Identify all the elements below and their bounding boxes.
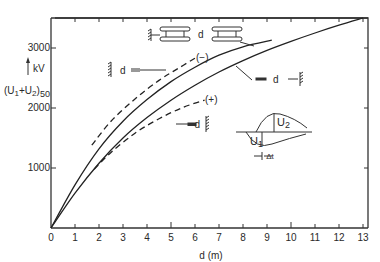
y-unit-label: kV (33, 63, 45, 74)
waveform-inset (236, 113, 312, 160)
ground-plane-hatch-icon (206, 116, 209, 132)
delta-t-label: Δt (266, 152, 274, 161)
x-tick-label: 10 (285, 232, 297, 243)
x-tick-label: 1 (72, 232, 78, 243)
curve-2 (92, 58, 195, 145)
x-tick-label: 8 (240, 232, 246, 243)
x-axis-tick-labels: 012345678910111213 (48, 232, 369, 243)
x-tick-label: 13 (357, 232, 369, 243)
insulator-string-icon (212, 27, 242, 41)
x-tick-label: 2 (96, 232, 102, 243)
x-tick-label: 4 (144, 232, 150, 243)
x-axis-ticks (75, 222, 363, 228)
gap-d-label-rod-rod: d (198, 29, 204, 40)
x-tick-label: 11 (310, 232, 321, 243)
y-tick-label-3000: 3000 (28, 42, 51, 53)
plot-frame (51, 18, 368, 228)
minus-curve-label: (−) (196, 52, 209, 63)
negative-rod-plane-sketch (108, 62, 166, 77)
x-tick-label: 12 (333, 232, 345, 243)
ground-plane-hatch-icon (108, 62, 111, 77)
y-tick-label-1000: 1000 (28, 162, 51, 173)
ground-hatch-icon (148, 29, 151, 41)
x-tick-label: 3 (120, 232, 126, 243)
u2-label: U2 (277, 116, 290, 130)
y-name-label: (U1+U2)50 (4, 85, 50, 99)
breakdown-voltage-chart: 012345678910111213 3000 2000 1000 kV (U1… (0, 0, 380, 262)
positive-rod-plane-sketch (176, 116, 209, 132)
arrow-head-icon (26, 57, 30, 63)
insulator-string-icon (160, 27, 190, 41)
gap-d-label-negative: d (120, 65, 126, 76)
x-axis-label: d (m) (199, 250, 222, 261)
x-tick-label: 9 (264, 232, 270, 243)
u1-label: U1 (250, 135, 263, 149)
rod-plane-electrode-sketch (236, 66, 303, 86)
gap-d-label-rod-plane: d (273, 74, 279, 85)
plus-curve-label: (+) (205, 94, 218, 105)
y-tick-label-2000: 2000 (28, 102, 51, 113)
x-tick-label: 5 (168, 232, 174, 243)
x-tick-label: 7 (216, 232, 222, 243)
x-tick-label: 6 (192, 232, 198, 243)
ground-plane-hatch-icon (300, 72, 303, 86)
x-tick-label: 0 (48, 232, 54, 243)
y-axis-label: kV (U1+U2)50 (4, 57, 50, 99)
gap-d-label-positive: d (194, 119, 200, 130)
